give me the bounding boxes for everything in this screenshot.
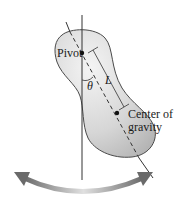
cog-label-line2: gravity [128,120,162,134]
angle-label: θ [87,79,93,93]
cog-label-line1: Center of [128,107,173,121]
center-of-gravity-point [115,111,119,115]
pivot-label: Pivot [57,46,83,60]
physical-pendulum-diagram: Pivot L θ Center of gravity [0,0,193,207]
axis-line-top [66,22,70,32]
swing-double-arrow [14,172,153,192]
length-label: L [104,73,112,87]
